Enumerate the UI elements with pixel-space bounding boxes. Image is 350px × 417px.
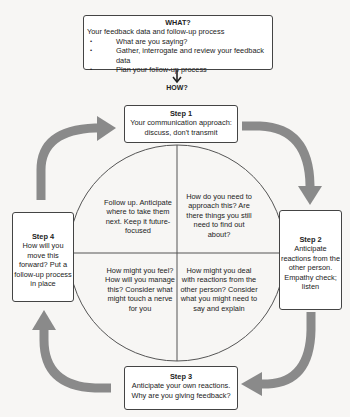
what-title: WHAT? xyxy=(84,18,272,27)
quadrant-bottom-right: How might you deal with reactions from t… xyxy=(180,266,258,313)
what-box: WHAT? Your feedback data and follow-up p… xyxy=(83,15,273,70)
step-2-title: Step 2 xyxy=(280,235,341,244)
step-4-text: How will you move this forward? Put a fo… xyxy=(13,241,73,288)
step-1-box: Step 1 Your communication approach: disc… xyxy=(124,105,238,143)
curved-arrow-step4-to-step1 xyxy=(41,116,116,200)
step-4-box: Step 4 How will you move this forward? P… xyxy=(12,212,74,302)
step-3-title: Step 3 xyxy=(125,372,237,381)
quadrant-top-right: How do you need to approach this? Are th… xyxy=(182,192,256,239)
step-2-text: Anticipate reactions from the other pers… xyxy=(280,244,341,291)
step-1-title: Step 1 xyxy=(125,109,237,118)
what-bullet: Gather, interrogate and review your feed… xyxy=(84,46,272,65)
quadrant-bottom-left: How might you feel? How will you manage … xyxy=(104,266,176,313)
what-bullet: What are you saying? xyxy=(84,37,272,46)
what-bullet: Plan your follow-up process xyxy=(84,65,272,74)
step-4-title: Step 4 xyxy=(13,232,73,241)
curved-arrow-step3-to-step4 xyxy=(32,310,111,388)
quadrant-top-left: Follow up. Anticipate where to take them… xyxy=(100,198,176,236)
how-label: HOW? xyxy=(160,84,194,91)
step-2-box: Step 2 Anticipate reactions from the oth… xyxy=(279,210,342,310)
step-3-box: Step 3 Anticipate your own reactions. Wh… xyxy=(124,366,238,410)
step-3-text: Anticipate your own reactions. Why are y… xyxy=(125,381,237,400)
what-bullet-list: What are you saying? Gather, interrogate… xyxy=(84,37,272,75)
step-1-text: Your communication approach: discuss, do… xyxy=(125,118,237,137)
what-intro: Your feedback data and follow-up process xyxy=(84,27,272,36)
curved-arrow-step2-to-step3 xyxy=(241,312,311,396)
quadrant-circle xyxy=(69,145,285,361)
